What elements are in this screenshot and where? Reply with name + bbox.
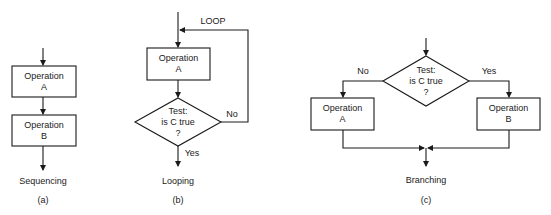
looping-decision-diamond: Test: is C true ?	[143, 104, 213, 140]
operation-b-letter: B	[41, 131, 47, 142]
figure-c-tag: (c)	[406, 195, 446, 206]
operation-a-label: Operation	[159, 53, 199, 64]
sequencing-operation-a-box: Operation A	[12, 66, 76, 97]
decision-question-mark: ?	[423, 87, 428, 98]
branching-operation-b-box: Operation B	[477, 98, 540, 130]
operation-b-label: Operation	[24, 120, 64, 131]
decision-question-mark: ?	[175, 128, 180, 139]
looping-no-label: No	[224, 109, 240, 120]
decision-test-label: Test:	[168, 106, 187, 117]
decision-condition: is C true	[409, 76, 443, 87]
looping-caption: Looping	[148, 176, 208, 187]
loop-label: LOOP	[198, 16, 228, 27]
branching-operation-a-box: Operation A	[311, 98, 374, 130]
operation-a-letter: A	[175, 64, 181, 75]
operation-a-label: Operation	[24, 71, 64, 82]
operation-a-label: Operation	[323, 103, 363, 114]
figure-b-tag: (b)	[158, 195, 198, 206]
operation-a-letter: A	[41, 82, 47, 93]
decision-condition: is C true	[161, 117, 195, 128]
looping-operation-a-box: Operation A	[147, 48, 210, 80]
branching-no-label: No	[355, 66, 371, 77]
operation-b-letter: B	[505, 114, 511, 125]
branching-yes-label: Yes	[479, 66, 499, 77]
branching-decision-diamond: Test: is C true ?	[391, 62, 461, 100]
decision-test-label: Test:	[416, 65, 435, 76]
branching-caption: Branching	[396, 175, 456, 186]
operation-a-letter: A	[339, 114, 345, 125]
sequencing-operation-b-box: Operation B	[12, 115, 76, 146]
operation-b-label: Operation	[489, 103, 529, 114]
sequencing-caption: Sequencing	[3, 176, 83, 187]
figure-a-tag: (a)	[3, 195, 83, 206]
looping-yes-label: Yes	[182, 148, 202, 159]
